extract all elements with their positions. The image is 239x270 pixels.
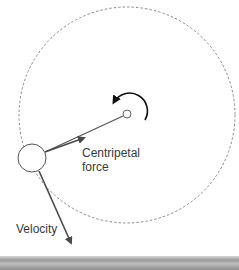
centripetal-label-line2: force xyxy=(82,160,140,174)
center-point xyxy=(123,110,131,118)
centripetal-label-line1: Centripetal xyxy=(82,146,140,160)
mass-circle xyxy=(18,144,46,172)
centripetal-force-arrow xyxy=(45,138,84,152)
velocity-label: Velocity xyxy=(16,222,57,236)
bottom-edge-bar xyxy=(0,256,239,270)
centripetal-force-label: Centripetal force xyxy=(82,146,140,174)
